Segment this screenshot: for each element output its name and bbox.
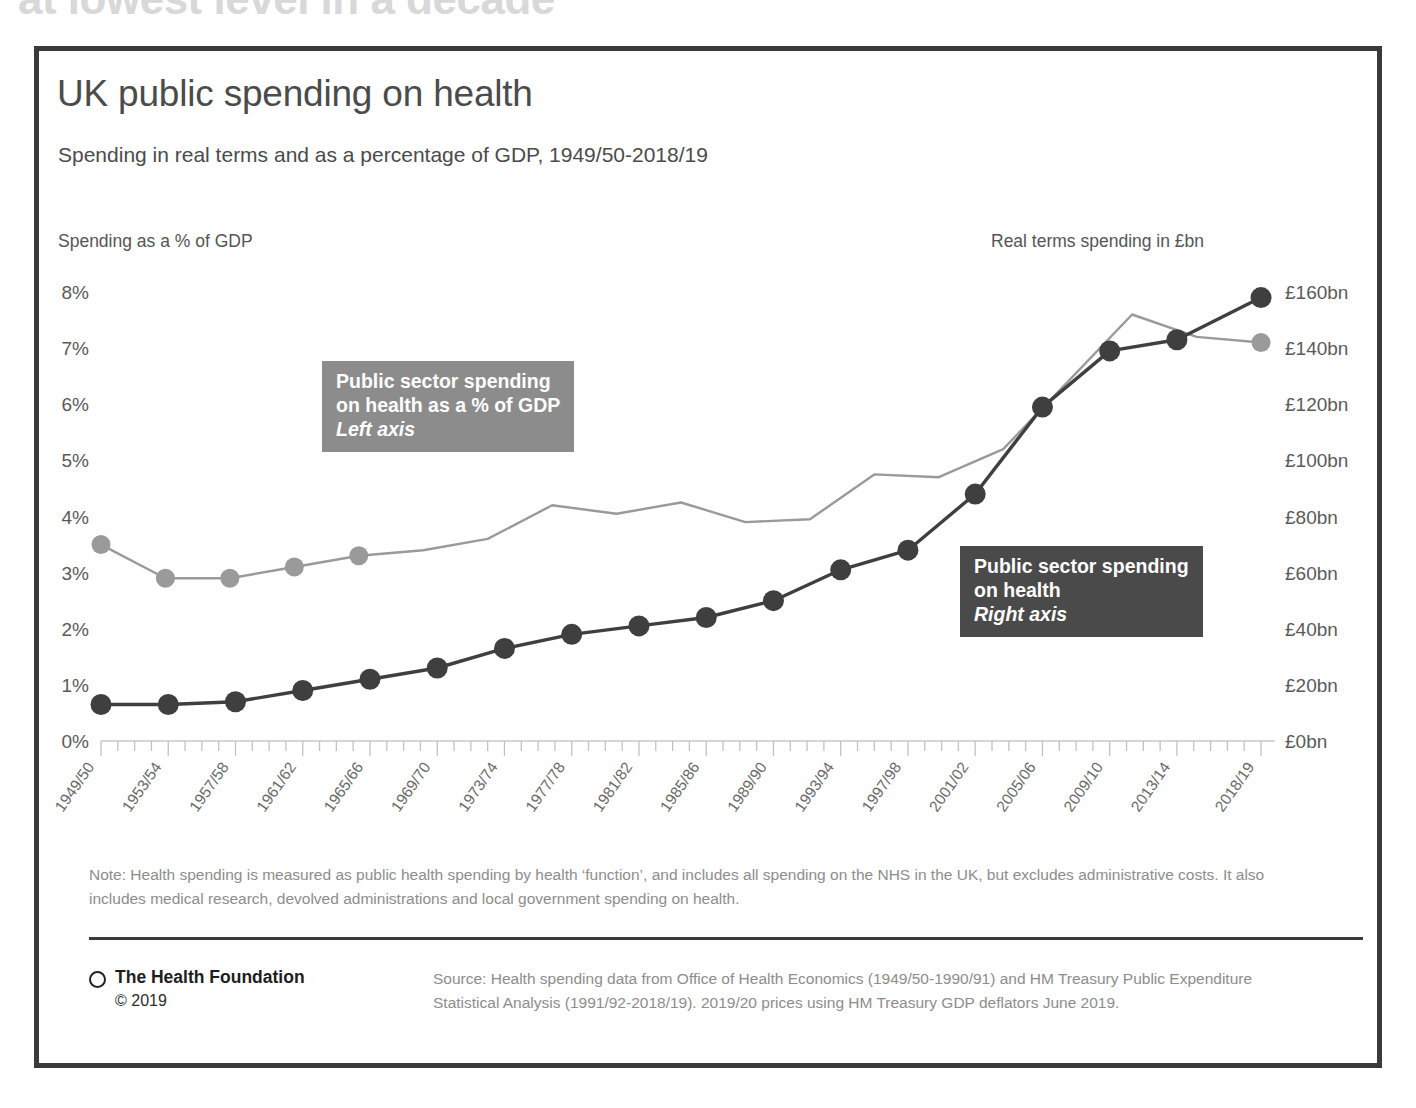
series-data-point <box>156 569 175 588</box>
series-data-point <box>92 535 111 554</box>
brand-block: The Health Foundation © 2019 <box>89 967 305 1011</box>
series-data-point <box>220 569 239 588</box>
source-text: Source: Health spending data from Office… <box>433 967 1263 1015</box>
series-line <box>101 315 1261 579</box>
series-data-point <box>494 638 515 659</box>
x-axis-tick-label: 2005/06 <box>993 759 1039 815</box>
series-data-point <box>561 624 582 645</box>
x-axis-tick-label: 1989/90 <box>724 759 770 815</box>
annotation-left-line2: on health as a % of GDP <box>336 394 560 418</box>
series-data-point <box>1032 397 1053 418</box>
series-data-point <box>1252 333 1271 352</box>
x-axis-tick-label: 1973/74 <box>455 759 501 815</box>
right-axis-tick-label: £40bn <box>1285 619 1338 640</box>
x-axis-tick-label: 1993/94 <box>791 759 837 815</box>
x-axis-tick-label: 1953/54 <box>119 759 165 815</box>
chart-card: UK public spending on health Spending in… <box>34 46 1382 1068</box>
x-axis-tick-label: 1969/70 <box>388 759 434 815</box>
series-data-point <box>285 558 304 577</box>
brand-name-text: The Health Foundation <box>115 967 305 987</box>
series-line <box>101 298 1261 705</box>
series-data-point <box>427 658 448 679</box>
x-axis-tick-label: 2013/14 <box>1127 759 1173 815</box>
series-data-point <box>1166 329 1187 350</box>
series-data-point <box>628 615 649 636</box>
x-axis-tick-label: 1977/78 <box>522 759 568 815</box>
x-axis-tick-label: 1997/98 <box>858 759 904 815</box>
annotation-left-line1: Public sector spending <box>336 370 560 394</box>
series-data-point <box>1099 340 1120 361</box>
left-axis-tick-label: 7% <box>62 338 90 359</box>
series-data-point <box>763 590 784 611</box>
x-axis-tick-label: 2018/19 <box>1211 759 1257 815</box>
x-axis-tick-label: 1985/86 <box>657 759 703 815</box>
x-axis-tick-label: 1949/50 <box>51 759 97 815</box>
cut-off-headline: at lowest level in a decade <box>18 0 918 18</box>
copyright-text: © 2019 <box>115 991 305 1011</box>
annotation-right-axis-series: Public sector spending on health Right a… <box>960 546 1203 637</box>
series-data-point <box>158 694 179 715</box>
annotation-right-line2: on health <box>974 579 1189 603</box>
annotation-right-line1: Public sector spending <box>974 555 1189 579</box>
series-data-point <box>897 540 918 561</box>
series-data-point <box>225 691 246 712</box>
series-data-point <box>91 694 112 715</box>
series-data-point <box>292 680 313 701</box>
x-axis-tick-label: 1965/66 <box>320 759 366 815</box>
right-axis-tick-label: £120bn <box>1285 394 1348 415</box>
x-axis-tick-label: 1957/58 <box>186 759 232 815</box>
series-data-point <box>965 484 986 505</box>
annotation-right-line3: Right axis <box>974 603 1189 627</box>
x-axis-tick-label: 1961/62 <box>253 759 299 815</box>
left-axis-tick-label: 5% <box>62 450 90 471</box>
right-axis-tick-label: £80bn <box>1285 507 1338 528</box>
right-axis-tick-label: £0bn <box>1285 731 1327 752</box>
left-axis-tick-label: 3% <box>62 563 90 584</box>
series-data-point <box>349 546 368 565</box>
series-data-point <box>1251 287 1272 308</box>
left-axis-tick-label: 0% <box>62 731 90 752</box>
right-axis-tick-label: £60bn <box>1285 563 1338 584</box>
right-axis-tick-label: £140bn <box>1285 338 1348 359</box>
series-data-point <box>359 669 380 690</box>
annotation-left-axis-series: Public sector spending on health as a % … <box>322 361 574 452</box>
chart-note: Note: Health spending is measured as pub… <box>89 863 1311 911</box>
left-axis-tick-label: 1% <box>62 675 90 696</box>
x-axis-tick-label: 2001/02 <box>926 759 972 815</box>
brand-name: The Health Foundation © 2019 <box>115 967 305 1011</box>
right-axis-tick-label: £100bn <box>1285 450 1348 471</box>
annotation-left-line3: Left axis <box>336 418 560 442</box>
circle-logo-icon <box>89 971 106 988</box>
left-axis-tick-label: 8% <box>62 282 90 303</box>
x-axis-tick-label: 1981/82 <box>589 759 635 815</box>
left-axis-tick-label: 6% <box>62 394 90 415</box>
left-axis-tick-label: 2% <box>62 619 90 640</box>
right-axis-tick-label: £160bn <box>1285 282 1348 303</box>
series-data-point <box>696 607 717 628</box>
card-footer: The Health Foundation © 2019 Source: Hea… <box>89 959 1339 1049</box>
footer-divider <box>89 937 1363 940</box>
right-axis-tick-label: £20bn <box>1285 675 1338 696</box>
series-data-point <box>830 559 851 580</box>
left-axis-tick-label: 4% <box>62 507 90 528</box>
x-axis-tick-label: 2009/10 <box>1060 759 1106 815</box>
